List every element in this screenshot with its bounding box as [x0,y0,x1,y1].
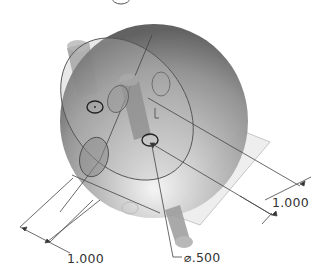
top-partial-circle [112,0,130,4]
dimension-diameter-label[interactable]: ⌀.500 [184,250,220,265]
cad-viewport[interactable] [0,0,331,278]
dimension-right-label[interactable]: 1.000 [272,195,309,210]
dimension-bottom-left-label[interactable]: 1.000 [67,251,104,266]
